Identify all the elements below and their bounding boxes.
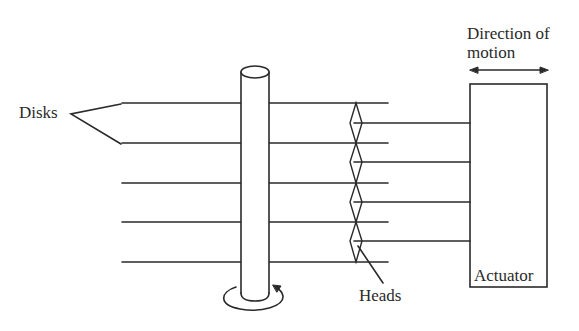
direction-arrow-icon <box>470 67 548 73</box>
spindle-top-ellipse <box>241 66 269 78</box>
head-diamond-2 <box>350 143 362 183</box>
disks-pointer <box>71 104 121 144</box>
head-diamond-4 <box>350 222 362 262</box>
disks-label: Disks <box>19 104 58 122</box>
disk-drive-diagram: Disks Direction of motion Heads Actuator <box>0 0 579 331</box>
actuator-box <box>470 84 547 287</box>
direction-label-line1: Direction of <box>467 25 550 43</box>
head-arms <box>354 123 470 241</box>
actuator-label: Actuator <box>474 267 533 285</box>
spindle <box>241 66 269 302</box>
heads-label: Heads <box>359 287 401 305</box>
heads-pointer <box>358 246 383 283</box>
direction-label-line2: motion <box>467 44 515 62</box>
